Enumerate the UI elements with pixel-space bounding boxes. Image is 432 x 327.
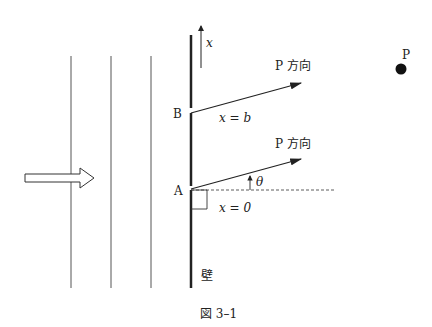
ray-a-direction-label: P 方向	[275, 136, 311, 151]
wall-label: 壁	[201, 268, 213, 283]
slit-a-coord-label: x = 0	[219, 201, 251, 215]
right-angle-mark	[191, 190, 207, 209]
ray-a-to-p	[191, 159, 301, 189]
incident-direction-arrow	[25, 168, 94, 188]
point-p	[396, 64, 407, 75]
angle-theta-label: θ	[256, 175, 264, 189]
slit-b-coord-label: x = b	[219, 111, 251, 125]
figure-caption: 図 3–1	[200, 307, 237, 321]
ray-b-direction-label: P 方向	[275, 58, 311, 73]
slit-a-label: A	[173, 184, 183, 198]
x-axis-label: x	[206, 36, 213, 50]
point-p-label: P	[402, 48, 410, 62]
diffraction-diagram: x P 方向 B x = b P 方向 A x = 0 θ P 壁 図 3–1	[0, 0, 432, 327]
slit-b-label: B	[173, 107, 182, 121]
ray-b-to-p	[191, 83, 301, 113]
